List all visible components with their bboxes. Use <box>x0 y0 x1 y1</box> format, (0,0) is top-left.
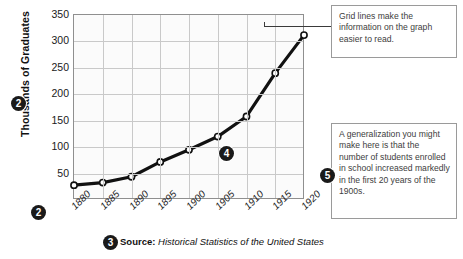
callout-leader-tick <box>264 22 265 27</box>
y-axis-tick-label: 50 <box>39 168 69 178</box>
gridline-vertical <box>218 15 219 198</box>
gridline-vertical <box>247 15 248 198</box>
gridline-horizontal <box>74 94 303 95</box>
badge-data-line: 4 <box>219 146 234 161</box>
gridline-horizontal <box>74 147 303 148</box>
gridline-horizontal <box>74 41 303 42</box>
y-axis-tick-label: 250 <box>39 62 69 72</box>
gridline-vertical <box>132 15 133 198</box>
y-axis-tick-label: 200 <box>39 88 69 98</box>
y-axis-tick-label: 300 <box>39 35 69 45</box>
source-label: Source: <box>120 236 155 247</box>
callout-grid-lines: Grid lines make the information on the g… <box>331 5 457 58</box>
source-line: Source: Historical Statistics of the Uni… <box>120 236 324 247</box>
badge-y-axis: 2 <box>11 96 26 111</box>
plot-area <box>73 14 304 199</box>
source-text: Historical Statistics of the United Stat… <box>158 236 324 247</box>
badge-x-axis: 2 <box>31 205 46 220</box>
x-axis-tick-labels: 188018851890189519001905191019151920 <box>73 200 304 234</box>
callout-leader-line <box>264 26 331 27</box>
y-axis-tick-label: 350 <box>39 9 69 19</box>
y-axis-tick-labels: 50100150200250300350 <box>35 14 69 199</box>
gridline-vertical <box>160 15 161 198</box>
gridline-horizontal <box>74 121 303 122</box>
callout-generalization: A generalization you might make here is … <box>331 123 457 219</box>
badge-source: 3 <box>103 235 118 250</box>
y-axis-tick-label: 150 <box>39 115 69 125</box>
gridline-vertical <box>103 15 104 198</box>
gridline-vertical <box>275 15 276 198</box>
gridline-horizontal <box>74 174 303 175</box>
line-graph-figure: Thousands of Graduates 50100150200250300… <box>0 0 463 259</box>
badge-generalization: 5 <box>320 168 335 183</box>
gridline-horizontal <box>74 68 303 69</box>
y-axis-title: Thousands of Graduates <box>19 0 31 159</box>
data-point-marker <box>71 182 77 188</box>
gridline-vertical <box>189 15 190 198</box>
y-axis-tick-label: 100 <box>39 141 69 151</box>
data-point-marker <box>301 32 307 38</box>
